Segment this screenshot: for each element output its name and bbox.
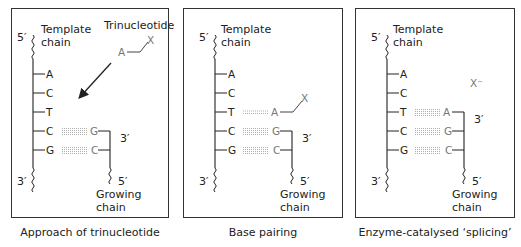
growing-3prime: 3′ — [120, 132, 130, 145]
template-3prime: 3′ — [199, 175, 209, 188]
template-5prime-wavy-end — [214, 35, 217, 59]
growing-base: C — [91, 144, 98, 156]
diagram-canvas: 5′ Template chain 3′ A C T C G G C 3′ 5′… — [0, 0, 521, 247]
template-base: T — [227, 106, 235, 118]
template-base: C — [228, 87, 235, 99]
template-label-2: chain — [41, 36, 71, 49]
template-label-1: Template — [40, 23, 91, 36]
hydrogen-bond — [415, 129, 441, 135]
template-label-1: Template — [392, 23, 443, 36]
trinucleotide-label: Trinucleotide — [103, 19, 175, 32]
template-base: A — [400, 68, 408, 80]
hydrogen-bond — [62, 129, 88, 135]
template-base: A — [228, 68, 236, 80]
growing-5prime-wavy-end — [463, 168, 466, 184]
template-base: C — [400, 87, 407, 99]
template-base: C — [400, 125, 407, 137]
released-group: X⁻ — [470, 77, 483, 89]
hydrogen-bond — [243, 111, 269, 114]
template-base: T — [399, 106, 407, 118]
template-base: G — [400, 144, 408, 156]
growing-label-1: Growing — [96, 188, 142, 201]
incoming-backbone — [280, 101, 302, 112]
growing-base: G — [444, 125, 452, 137]
template-3prime: 3′ — [371, 175, 381, 188]
growing-label-2: chain — [96, 201, 126, 214]
incoming-group: X — [301, 92, 308, 104]
growing-5prime-wavy-end — [109, 168, 112, 184]
growing-3prime: 3′ — [474, 113, 484, 126]
panel-3-diagram: 5′ Template chain 3′ A C T C G A G C 3′ … — [371, 23, 498, 214]
hydrogen-bond — [62, 148, 88, 154]
hydrogen-bond — [415, 110, 441, 116]
growing-base: C — [445, 144, 452, 156]
trinucleotide-backbone — [127, 42, 148, 52]
panel-2-diagram: 5′ Template chain 3′ A C T C G A X G C 3… — [199, 23, 326, 214]
growing-label-1: Growing — [452, 188, 498, 201]
hydrogen-bond — [243, 148, 269, 154]
template-base: A — [46, 68, 54, 80]
growing-5prime: 5′ — [118, 175, 128, 188]
incoming-base: A — [118, 46, 126, 58]
template-3prime-wavy-end — [214, 168, 217, 192]
panel-1-diagram: 5′ Template chain 3′ A C T C G G C 3′ 5′… — [17, 19, 175, 214]
growing-base: G — [90, 125, 98, 137]
template-5prime-wavy-end — [32, 35, 35, 59]
template-label-1: Template — [220, 23, 271, 36]
growing-base: A — [443, 106, 451, 118]
template-3prime-wavy-end — [386, 168, 389, 192]
template-base: C — [46, 87, 53, 99]
growing-base: G — [272, 125, 280, 137]
hydrogen-bond — [243, 129, 269, 135]
approach-arrow-icon — [80, 63, 111, 97]
template-base: T — [45, 106, 53, 118]
growing-base: C — [273, 144, 280, 156]
template-base: G — [46, 144, 54, 156]
template-label-2: chain — [221, 36, 251, 49]
incoming-group: X — [147, 34, 154, 46]
growing-label-2: chain — [280, 201, 310, 214]
hydrogen-bond — [415, 148, 441, 154]
template-3prime-wavy-end — [32, 168, 35, 192]
growing-5prime-wavy-end — [291, 168, 294, 184]
template-base: C — [46, 125, 53, 137]
template-5prime: 5′ — [17, 31, 27, 44]
growing-3prime: 3′ — [302, 132, 312, 145]
template-3prime: 3′ — [17, 175, 27, 188]
template-5prime: 5′ — [371, 31, 381, 44]
template-base: G — [228, 144, 236, 156]
template-5prime-wavy-end — [386, 35, 389, 59]
growing-label-1: Growing — [280, 188, 326, 201]
template-base: C — [228, 125, 235, 137]
growing-base: A — [271, 106, 279, 118]
growing-label-2: chain — [452, 201, 482, 214]
template-label-2: chain — [393, 36, 423, 49]
growing-5prime: 5′ — [472, 175, 482, 188]
growing-5prime: 5′ — [300, 175, 310, 188]
template-5prime: 5′ — [199, 31, 209, 44]
